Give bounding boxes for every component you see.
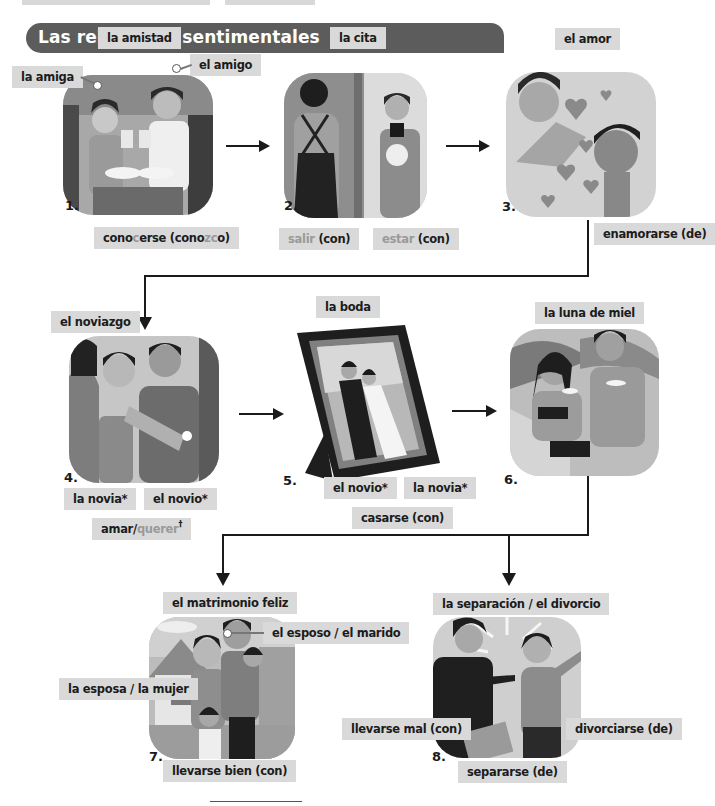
flow-arrow-right bbox=[226, 145, 261, 147]
label-leader-line bbox=[228, 632, 264, 634]
step-number: 3. bbox=[502, 199, 516, 214]
label-el-matrimonio-feliz: el matrimonio feliz bbox=[163, 592, 297, 614]
flow-arrow-right bbox=[446, 145, 481, 147]
label-la-esposa-la-mujer: la esposa / la mujer bbox=[59, 678, 198, 700]
label-la-cita: la cita bbox=[330, 27, 386, 49]
verb-enamorarse: enamorarse (de) bbox=[594, 223, 715, 245]
label-la-boda: la boda bbox=[316, 296, 380, 318]
step-number: 1. bbox=[65, 198, 79, 213]
flow-arrow-down bbox=[138, 317, 152, 330]
flow-connector bbox=[222, 534, 589, 536]
footnote-divider bbox=[210, 801, 302, 802]
verb-llevarse-bien: llevarse bien (con) bbox=[163, 760, 296, 782]
label-la-novia-boda: la novia* bbox=[404, 477, 476, 499]
label-la-luna-de-miel: la luna de miel bbox=[535, 302, 644, 324]
verb-llevarse-mal: llevarse mal (con) bbox=[342, 718, 471, 740]
verb-separarse: separarse (de) bbox=[458, 761, 567, 783]
label-el-amigo: el amigo bbox=[190, 54, 261, 76]
flow-arrow-down bbox=[216, 573, 230, 586]
label-la-separacion-el-divorcio: la separación / el divorcio bbox=[433, 593, 609, 615]
flow-connector bbox=[508, 534, 510, 576]
page-edge-strip bbox=[22, 0, 210, 5]
flow-connector bbox=[144, 275, 146, 320]
flow-connector bbox=[222, 534, 224, 576]
step-number: 2. bbox=[284, 198, 298, 213]
step-number: 6. bbox=[504, 472, 518, 487]
step-number: 7. bbox=[149, 749, 163, 764]
label-el-noviazgo: el noviazgo bbox=[51, 311, 140, 333]
label-la-amistad: la amistad bbox=[98, 27, 181, 49]
label-pointer-dot bbox=[172, 64, 181, 73]
flow-arrow-down bbox=[502, 573, 516, 586]
label-el-novio-boda: el novio* bbox=[324, 477, 397, 499]
verb-amar-querer: amar/querer† bbox=[92, 518, 191, 540]
illustration-friends-toasting bbox=[63, 75, 213, 215]
illustration-wedding-photo-frame bbox=[295, 323, 440, 483]
label-la-novia: la novia* bbox=[64, 488, 136, 510]
label-el-novio: el novio* bbox=[144, 488, 217, 510]
illustration-couple-in-love bbox=[506, 72, 656, 217]
flow-connector bbox=[587, 220, 589, 276]
verb-estar: estar (con) bbox=[373, 228, 459, 250]
step-number: 5. bbox=[283, 473, 297, 488]
label-el-amor: el amor bbox=[555, 28, 620, 50]
step-number: 8. bbox=[432, 749, 446, 764]
verb-casarse: casarse (con) bbox=[352, 507, 453, 529]
verb-conocerse: conocerse (conozco) bbox=[94, 227, 239, 249]
illustration-honeymoon-beach bbox=[510, 329, 659, 476]
label-pointer-dot bbox=[223, 629, 232, 638]
illustration-engagement-ring bbox=[69, 336, 219, 483]
page-edge-strip bbox=[225, 0, 315, 5]
label-el-esposo-el-marido: el esposo / el marido bbox=[263, 622, 409, 644]
flow-connector bbox=[144, 275, 589, 277]
verb-divorciarse: divorciarse (de) bbox=[566, 718, 682, 740]
illustration-date-at-door bbox=[284, 73, 427, 218]
flow-connector bbox=[587, 476, 589, 535]
flow-arrow-right bbox=[239, 413, 275, 415]
flow-arrow-right bbox=[452, 410, 488, 412]
verb-salir: salir (con) bbox=[279, 228, 359, 250]
step-number: 4. bbox=[64, 470, 78, 485]
label-pointer-dot bbox=[93, 81, 102, 90]
label-la-amiga: la amiga bbox=[12, 66, 83, 88]
